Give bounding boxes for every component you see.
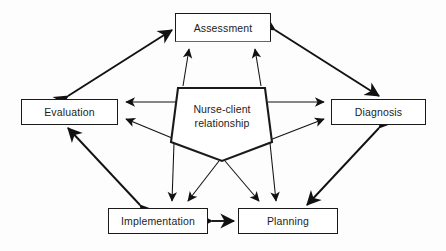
nursing-process-diagram: Nurse-client relationship Assessment Eva… xyxy=(0,0,446,251)
node-evaluation-label: Evaluation xyxy=(44,106,95,118)
node-assessment[interactable]: Assessment xyxy=(175,13,271,42)
connector-center-assessment-right xyxy=(255,49,261,86)
node-diagnosis-label: Diagnosis xyxy=(355,106,402,118)
connector-center-implementation-right xyxy=(188,161,219,201)
connector-center-assessment-left xyxy=(183,49,189,86)
node-planning-label: Planning xyxy=(267,215,309,227)
connector-diagnosis-planning xyxy=(307,128,379,205)
connector-center-planning-right xyxy=(270,143,276,201)
connector-evaluation-assessment xyxy=(68,30,172,96)
nurse-client-relationship-pentagon xyxy=(171,88,272,161)
connector-center-implementation-left xyxy=(172,143,174,201)
node-planning[interactable]: Planning xyxy=(238,208,338,234)
node-implementation[interactable]: Implementation xyxy=(108,208,208,234)
connector-center-planning-left xyxy=(225,161,259,201)
node-assessment-label: Assessment xyxy=(194,22,253,34)
node-implementation-label: Implementation xyxy=(121,215,195,227)
node-evaluation[interactable]: Evaluation xyxy=(21,99,118,125)
connector-assessment-diagnosis xyxy=(275,30,379,96)
node-diagnosis[interactable]: Diagnosis xyxy=(331,99,426,125)
connector-implementation-evaluation xyxy=(68,128,140,205)
